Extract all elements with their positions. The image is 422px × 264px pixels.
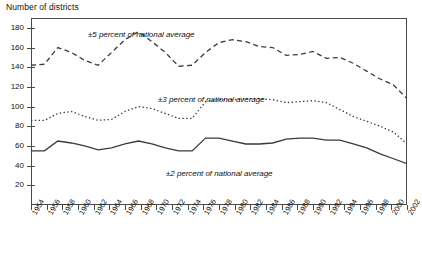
series-line-pm2 [31, 138, 407, 164]
y-tick-label: 60 [2, 141, 24, 150]
series-label-pm3: ±3 percent of national average [158, 95, 265, 104]
y-tick-label: 100 [2, 102, 24, 111]
y-tick-label: 80 [2, 121, 24, 130]
y-tick-label: 180 [2, 23, 24, 32]
series-label-pm2: ±2 percent of national average [166, 169, 273, 178]
series-line-pm5 [31, 32, 407, 99]
y-tick-label: 140 [2, 62, 24, 71]
y-axis-title: Number of districts [6, 2, 79, 12]
y-tick-label: 160 [2, 43, 24, 52]
y-tick-label: 120 [2, 82, 24, 91]
x-tick-label: 2002 [406, 198, 422, 217]
y-tick-label: 20 [2, 180, 24, 189]
series-label-pm5: ±5 percent of national average [88, 30, 195, 39]
y-tick-label: 40 [2, 161, 24, 170]
series-line-pm3 [31, 99, 407, 144]
